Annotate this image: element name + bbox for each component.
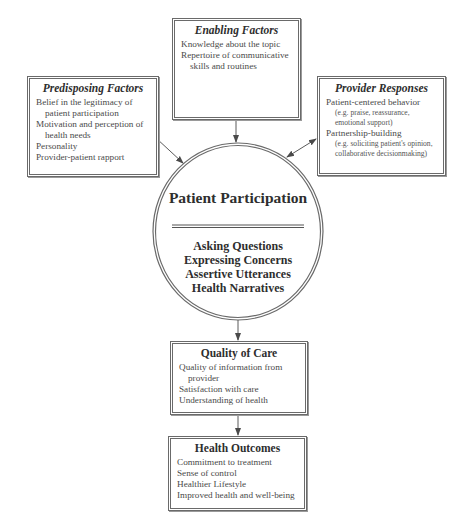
- health-outcomes-box: Health Outcomes Commitment to treatment …: [168, 436, 307, 511]
- provider-item-note: (e.g. soliciting patient's opinion, coll…: [335, 139, 439, 159]
- outcome-item: Improved health and well-being: [177, 490, 300, 501]
- quality-of-care-box: Quality of Care Quality of information f…: [170, 341, 308, 415]
- predisposing-factors-box: Predisposing Factors Belief in the legit…: [27, 76, 159, 177]
- outcome-item: Sense of control: [177, 468, 300, 479]
- participation-item: Expressing Concerns: [153, 253, 323, 267]
- predisposing-item: Motivation and perception of health need…: [36, 119, 152, 141]
- outcome-item: Healthier Lifestyle: [177, 479, 300, 490]
- provider-item-note: (e.g. praise, reassurance, emotional sup…: [335, 108, 439, 128]
- enabling-item: Knowledge about the topic: [181, 39, 294, 50]
- patient-participation: Patient Participation Asking Questions E…: [153, 143, 323, 321]
- enabling-item: Repertoire of communicative skills and r…: [181, 50, 294, 72]
- quality-item: Understanding of health: [179, 395, 301, 406]
- provider-item: Partnership-building (e.g. soliciting pa…: [326, 128, 439, 159]
- predisposing-item: Personality: [36, 141, 152, 152]
- predisposing-item: Belief in the legitimacy of patient part…: [36, 97, 152, 119]
- provider-item: Patient-centered behavior (e.g. praise, …: [326, 97, 439, 128]
- provider-responses-box: Provider Responses Patient-centered beha…: [317, 76, 446, 176]
- participation-item: Asking Questions: [153, 239, 323, 253]
- quality-item: Quality of information from provider: [179, 362, 301, 384]
- participation-item: Health Narratives: [153, 281, 323, 295]
- provider-item-label: Patient-centered behavior: [326, 97, 420, 107]
- patient-participation-title: Patient Participation: [153, 189, 323, 207]
- quality-of-care-title: Quality of Care: [173, 347, 305, 359]
- outcome-item: Commitment to treatment: [177, 457, 300, 468]
- health-outcomes-title: Health Outcomes: [171, 442, 304, 454]
- predisposing-item: Provider-patient rapport: [36, 152, 152, 163]
- predisposing-factors-title: Predisposing Factors: [30, 82, 156, 94]
- enabling-factors-title: Enabling Factors: [175, 24, 298, 36]
- provider-item-label: Partnership-building: [326, 128, 402, 138]
- quality-item: Satisfaction with care: [179, 384, 301, 395]
- participation-behaviors: Asking Questions Expressing Concerns Ass…: [153, 239, 323, 295]
- participation-item: Assertive Utterances: [153, 267, 323, 281]
- enabling-factors-box: Enabling Factors Knowledge about the top…: [172, 18, 301, 120]
- provider-responses-title: Provider Responses: [320, 82, 443, 94]
